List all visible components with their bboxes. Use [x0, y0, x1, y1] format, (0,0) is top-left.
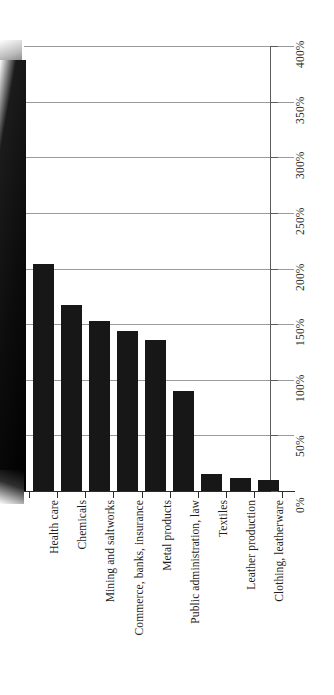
x-axis-category-label: Commerce, banks, insurance — [133, 500, 145, 635]
bar — [230, 478, 251, 491]
y-axis-tick-label: 150% — [294, 306, 306, 346]
y-axis-tick-label: 100% — [294, 362, 306, 402]
x-axis-tick — [282, 491, 283, 498]
y-axis-tick — [271, 491, 278, 492]
bar — [61, 305, 82, 491]
clipped-leading-bar — [0, 60, 26, 492]
bar — [258, 480, 279, 491]
bar — [117, 331, 138, 491]
x-axis-category-label: Clothing, leatherware — [273, 500, 285, 602]
bar — [145, 340, 166, 491]
x-axis-category-label: Health care — [48, 500, 60, 554]
y-axis-tick-label: 350% — [294, 84, 306, 124]
x-axis-category-label: Leather production — [245, 500, 257, 590]
x-axis-tick — [226, 491, 227, 498]
scan-shadow-bottom — [0, 470, 24, 504]
x-axis-tick — [170, 491, 171, 498]
x-axis-tick — [142, 491, 143, 498]
x-axis-category-label: Public administration, law — [189, 500, 201, 624]
y-axis-tick-label: 50% — [294, 417, 306, 457]
x-axis-tick — [254, 491, 255, 498]
x-axis-tick — [113, 491, 114, 498]
bar — [201, 474, 222, 491]
x-axis-category-label: Metal products — [161, 500, 173, 571]
bar-chart: 400%350%300%250%200%150%100%50%0% Health… — [0, 0, 334, 695]
x-axis-category-label: Mining and saltworks — [104, 500, 116, 602]
x-axis-tick — [29, 491, 30, 498]
y-axis-tick-label: 250% — [294, 195, 306, 235]
bar — [89, 321, 110, 491]
x-axis-tick — [57, 491, 58, 498]
bar — [173, 391, 194, 491]
x-axis-tick — [198, 491, 199, 498]
x-axis-category-label: Chemicals — [76, 500, 88, 549]
y-axis-tick-label: 200% — [294, 251, 306, 291]
x-axis-tick — [85, 491, 86, 498]
y-axis-tick-label: 400% — [294, 28, 306, 68]
x-axis-category-label: Textiles — [217, 500, 229, 537]
bar — [33, 264, 54, 491]
bar-series — [24, 46, 294, 491]
y-axis-tick-label: 300% — [294, 139, 306, 179]
x-axis-labels: Health careChemicalsMining and saltworks… — [24, 500, 304, 695]
